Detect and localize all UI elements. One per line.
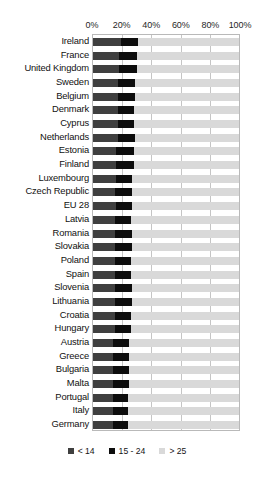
bar-segment: [118, 120, 134, 128]
bar-segment: [115, 230, 133, 238]
bar-row: [93, 65, 239, 73]
legend-label: < 14: [78, 446, 95, 456]
bar-segment: [132, 202, 239, 210]
bar-segment: [93, 230, 115, 238]
bar-segment: [93, 175, 116, 183]
bar-row: [93, 243, 239, 251]
bar-segment: [93, 147, 116, 155]
bar-segment: [115, 284, 133, 292]
bar-segment: [93, 421, 113, 429]
bar-row: [93, 394, 239, 402]
bar-segment: [93, 243, 115, 251]
bar-segment: [128, 407, 239, 415]
bar-segment: [135, 79, 239, 87]
bar-segment: [116, 147, 134, 155]
bar-segment: [118, 106, 134, 114]
bar-segment: [132, 188, 239, 196]
category-label: Netherlands: [0, 132, 89, 142]
bar-segment: [129, 339, 239, 347]
bar-segment: [131, 271, 239, 279]
category-label: Luxembourg: [0, 173, 89, 183]
bar-segment: [93, 52, 119, 60]
category-label: Greece: [0, 351, 89, 361]
bar-row: [93, 134, 239, 142]
bar-segment: [115, 271, 131, 279]
bar-row: [93, 216, 239, 224]
bar-segment: [93, 93, 118, 101]
bar-row: [93, 188, 239, 196]
bar-segment: [138, 38, 239, 46]
bar-segment: [93, 271, 115, 279]
bar-row: [93, 271, 239, 279]
bar-segment: [93, 38, 121, 46]
bar-row: [93, 79, 239, 87]
category-label: Finland: [0, 159, 89, 169]
x-tick-label: 80%: [202, 20, 220, 31]
category-label: France: [0, 50, 89, 60]
bar-row: [93, 257, 239, 265]
bar-segment: [131, 216, 239, 224]
bar-segment: [93, 325, 115, 333]
x-tick-label: 20%: [113, 20, 131, 31]
bar-segment: [113, 339, 129, 347]
legend-item[interactable]: 15 - 24: [109, 446, 146, 456]
category-label: Cyprus: [0, 118, 89, 128]
bar-segment: [131, 312, 239, 320]
category-label: Czech Republic: [0, 186, 89, 196]
x-axis-tick-labels: 0%20%40%60%80%100%: [0, 20, 254, 34]
bar-segment: [132, 298, 239, 306]
category-label: Sweden: [0, 77, 89, 87]
category-label: United Kingdom: [0, 63, 89, 73]
bar-segment: [93, 161, 116, 169]
bar-segment: [93, 312, 115, 320]
bar-segment: [116, 202, 132, 210]
bar-row: [93, 407, 239, 415]
category-label: Lithuania: [0, 296, 89, 306]
bar-segment: [113, 421, 128, 429]
bar-segment: [115, 243, 133, 251]
bar-row: [93, 202, 239, 210]
bar-row: [93, 106, 239, 114]
bar-segment: [93, 339, 113, 347]
legend-label: > 25: [169, 446, 186, 456]
bar-segment: [118, 134, 136, 142]
bar-series-container: [93, 35, 239, 430]
bar-segment: [93, 257, 115, 265]
category-label: Hungary: [0, 323, 89, 333]
bar-segment: [93, 120, 118, 128]
category-label: Estonia: [0, 145, 89, 155]
bar-row: [93, 147, 239, 155]
bar-row: [93, 380, 239, 388]
bar-segment: [137, 52, 239, 60]
bar-segment: [116, 175, 132, 183]
category-label: Croatia: [0, 310, 89, 320]
bar-segment: [113, 353, 129, 361]
legend-item[interactable]: > 25: [159, 446, 186, 456]
bar-segment: [135, 134, 239, 142]
bar-segment: [93, 65, 119, 73]
category-label: Latvia: [0, 214, 89, 224]
bar-segment: [93, 284, 115, 292]
category-label: Spain: [0, 269, 89, 279]
x-tick-label: 0%: [86, 20, 99, 31]
bar-segment: [93, 380, 113, 388]
bar-segment: [115, 257, 131, 265]
bar-segment: [115, 188, 133, 196]
bar-segment: [131, 325, 239, 333]
stacked-bar-chart: 0%20%40%60%80%100% IrelandFranceUnited K…: [0, 0, 254, 481]
bar-row: [93, 339, 239, 347]
bar-segment: [113, 380, 129, 388]
bar-segment: [135, 93, 239, 101]
bar-row: [93, 298, 239, 306]
bar-segment: [131, 257, 239, 265]
category-label: Malta: [0, 378, 89, 388]
bar-row: [93, 366, 239, 374]
bar-row: [93, 284, 239, 292]
bar-segment: [128, 394, 239, 402]
bar-row: [93, 325, 239, 333]
bar-segment: [93, 134, 118, 142]
bar-segment: [93, 202, 116, 210]
bar-row: [93, 353, 239, 361]
bar-segment: [132, 284, 239, 292]
legend-item[interactable]: < 14: [68, 446, 95, 456]
